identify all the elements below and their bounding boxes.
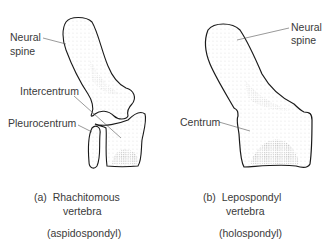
pleurocentrum-shape — [88, 126, 100, 168]
caption-a-title: Rhachitomous — [53, 191, 120, 203]
caption-b-prefix: (b) — [203, 191, 216, 203]
label-centrum: Centrum — [180, 116, 220, 128]
caption-a: (a) Rhachitomous — [34, 191, 120, 204]
caption-a-subtype: (aspidospondyl) — [47, 227, 121, 240]
caption-b-title: Lepospondyl — [222, 191, 282, 203]
label-pleurocentrum: Pleurocentrum — [8, 117, 76, 129]
neural-spine-a-shape — [63, 18, 134, 120]
label-neural-spine-a-line2: spine — [10, 45, 35, 57]
caption-b-line2: vertebra — [226, 205, 265, 218]
label-neural-spine-b-line1: Neural — [291, 21, 322, 33]
label-intercentrum: Intercentrum — [20, 85, 79, 97]
caption-b: (b) Lepospondyl — [203, 191, 281, 204]
caption-b-subtype: (holospondyl) — [219, 227, 282, 240]
label-neural-spine-b-line2: spine — [291, 34, 316, 46]
caption-a-line2: vertebra — [63, 205, 102, 218]
caption-a-prefix: (a) — [34, 191, 47, 203]
label-neural-spine-a-line1: Neural — [10, 31, 41, 43]
